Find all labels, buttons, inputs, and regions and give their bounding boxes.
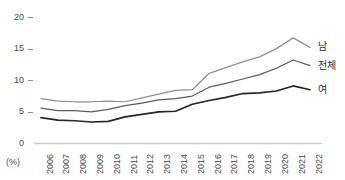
x-tick-label-2010: 2010 — [113, 154, 122, 174]
y-tick-label-0: 0 — [6, 139, 24, 148]
y-tick-label-10: 10 — [6, 76, 24, 85]
y-tick-mark-10 — [28, 80, 33, 81]
x-tick-label-2013: 2013 — [163, 154, 172, 174]
series-label-남: 남 — [318, 42, 327, 52]
y-tick-mark-5 — [28, 112, 33, 113]
series-label-여: 여 — [318, 85, 327, 95]
unit-label: (%) — [6, 158, 20, 167]
series-line-전체 — [41, 60, 310, 112]
x-tick-label-2007: 2007 — [62, 154, 71, 174]
x-tick-label-2020: 2020 — [281, 154, 290, 174]
x-tick-label-2006: 2006 — [46, 154, 55, 174]
y-tick-mark-20 — [28, 17, 33, 18]
y-tick-mark-15 — [28, 49, 33, 50]
x-tick-label-2021: 2021 — [298, 154, 307, 174]
x-tick-label-2018: 2018 — [247, 154, 256, 174]
x-tick-label-2012: 2012 — [146, 154, 155, 174]
series-layer — [41, 38, 310, 122]
x-tick-label-2017: 2017 — [230, 154, 239, 174]
line-chart: 05101520 2006200720082009201020112012201… — [0, 0, 345, 180]
y-tick-label-15: 15 — [6, 44, 24, 53]
x-tick-label-2011: 2011 — [130, 155, 139, 174]
x-tick-label-2008: 2008 — [79, 154, 88, 174]
x-tick-label-2019: 2019 — [264, 154, 273, 174]
x-tick-label-2015: 2015 — [197, 154, 206, 174]
y-tick-label-20: 20 — [6, 13, 24, 22]
x-tick-label-2014: 2014 — [180, 154, 189, 174]
x-tick-label-2016: 2016 — [214, 154, 223, 174]
y-tick-label-5: 5 — [6, 107, 24, 116]
series-label-전체: 전체 — [318, 61, 336, 71]
x-tick-label-2009: 2009 — [96, 154, 105, 174]
series-line-여 — [41, 86, 310, 122]
x-tick-label-2022: 2022 — [315, 154, 324, 174]
